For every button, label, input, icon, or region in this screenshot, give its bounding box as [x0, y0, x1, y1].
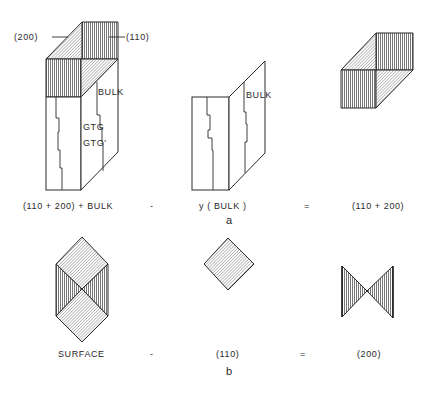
panel-a: (200) (110) BULK GTG GTG' BULK (110 + 20…: [14, 22, 413, 226]
equation-a-equals: =: [304, 201, 310, 211]
front-110-face: [46, 59, 81, 97]
bowtie-right-triangle: [367, 266, 393, 318]
middle-bulk-label: BULK: [246, 90, 272, 100]
surface-hexagon: [56, 237, 108, 342]
top-slant-200-face: [46, 22, 82, 59]
crystal-face-diagram: (200) (110) BULK GTG GTG' BULK (110 + 20…: [0, 0, 431, 394]
equation-b-equals: =: [300, 349, 306, 359]
lower-200-face: [376, 70, 413, 108]
bowtie-left-triangle: [342, 266, 367, 317]
equation-a-result: (110 + 200): [352, 201, 404, 211]
panel-b: SURFACE - (110) = (200) b: [56, 237, 393, 377]
gtg-prime-label: GTG': [83, 138, 107, 148]
surface-faces-figure: [341, 33, 413, 108]
front-bulk-face: [46, 97, 81, 190]
panel-b-caption: b: [226, 365, 232, 377]
upper-200-face: [341, 33, 376, 70]
equation-a-minus: -: [150, 201, 154, 211]
equation-b-minus: -: [150, 349, 154, 359]
equation-a-term2: y ( BULK ): [199, 201, 247, 211]
middle-bulk-block: BULK: [192, 61, 272, 190]
equation-a-term1: (110 + 200) + BULK: [23, 201, 113, 211]
equation-b-result: (200): [357, 349, 381, 359]
200-bowtie: [342, 266, 393, 318]
left-crystal-block: (200) (110) BULK GTG GTG': [14, 22, 149, 190]
top-back-110-face: [82, 22, 118, 59]
front-110-face: [341, 70, 376, 108]
gtg-label: GTG: [83, 122, 104, 132]
middle-front-face: [192, 97, 229, 190]
callout-200-label: (200): [14, 32, 38, 42]
callout-110-label: (110): [126, 32, 149, 42]
equation-b-term2: (110): [216, 349, 239, 359]
panel-a-caption: a: [226, 214, 233, 226]
equation-b-term1: SURFACE: [58, 349, 105, 359]
back-110-face: [376, 33, 413, 70]
110-diamond: [204, 238, 254, 290]
bulk-label: BULK: [98, 87, 124, 97]
